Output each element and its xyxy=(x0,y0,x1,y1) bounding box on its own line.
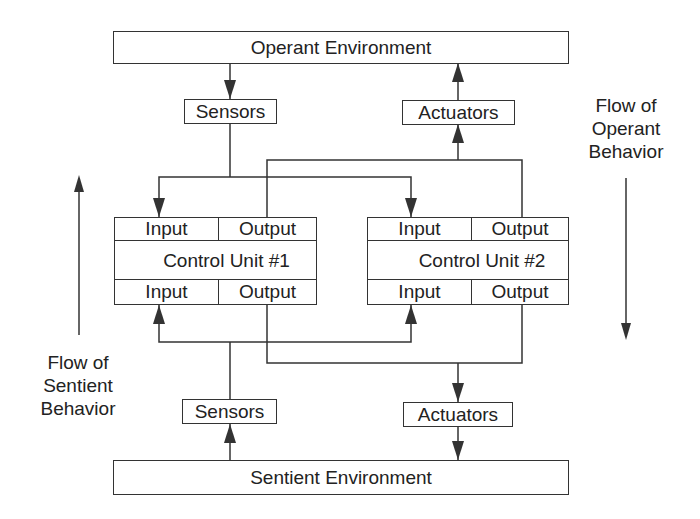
bottom-sensors-box: Sensors xyxy=(182,399,277,424)
sentient-environment-box: Sentient Environment xyxy=(113,460,569,495)
flow-sentient-line-2: Sentient xyxy=(22,374,134,397)
control-unit-1-bottom-row: Input Output xyxy=(115,279,316,304)
bottom-sensors-label: Sensors xyxy=(195,402,265,421)
flow-sentient-label: Flow of Sentient Behavior xyxy=(22,351,134,420)
control-unit-1-top-output: Output xyxy=(219,218,316,240)
top-sensors-label: Sensors xyxy=(196,102,266,121)
flow-operant-label: Flow of Operant Behavior xyxy=(570,94,682,163)
sentient-environment-label: Sentient Environment xyxy=(250,468,432,487)
control-unit-2-name: Control Unit #2 xyxy=(368,240,568,282)
control-unit-2-bottom-row: Input Output xyxy=(368,279,568,304)
top-actuators-box: Actuators xyxy=(402,100,515,125)
control-unit-2-bottom-output: Output xyxy=(472,280,568,304)
flow-operant-line-2: Operant xyxy=(570,117,682,140)
operant-environment-label: Operant Environment xyxy=(251,38,432,57)
flow-operant-line-3: Behavior xyxy=(570,140,682,163)
flow-sentient-line-3: Behavior xyxy=(22,397,134,420)
control-unit-2-top-input: Input xyxy=(368,218,472,240)
connection-wires xyxy=(0,0,700,519)
operant-environment-box: Operant Environment xyxy=(113,31,569,64)
control-unit-2-top-output: Output xyxy=(472,218,568,240)
bottom-actuators-box: Actuators xyxy=(403,402,513,427)
control-unit-1: Input Output Control Unit #1 Input Outpu… xyxy=(114,217,317,305)
control-unit-1-top-row: Input Output xyxy=(115,218,316,241)
control-unit-2-bottom-input: Input xyxy=(368,280,472,304)
flow-sentient-line-1: Flow of xyxy=(22,351,134,374)
top-sensors-box: Sensors xyxy=(184,99,277,124)
control-unit-1-name: Control Unit #1 xyxy=(115,240,316,282)
top-actuators-label: Actuators xyxy=(418,103,498,122)
control-unit-2-top-row: Input Output xyxy=(368,218,568,241)
flow-operant-line-1: Flow of xyxy=(570,94,682,117)
control-unit-2: Input Output Control Unit #2 Input Outpu… xyxy=(367,217,569,305)
control-unit-1-top-input: Input xyxy=(115,218,219,240)
bottom-actuators-label: Actuators xyxy=(418,405,498,424)
control-unit-1-bottom-input: Input xyxy=(115,280,219,304)
control-unit-1-bottom-output: Output xyxy=(219,280,316,304)
